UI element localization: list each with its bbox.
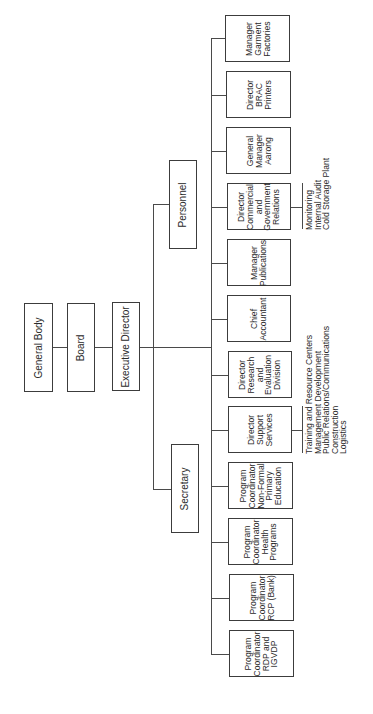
- connector-personnel: [153, 204, 169, 205]
- stub-unit-3: [211, 207, 227, 208]
- line: Director: [245, 79, 254, 109]
- line: General: [245, 134, 254, 168]
- note: Logistics: [339, 326, 348, 454]
- box-director-brac-printers: Director BRAC Printers: [226, 71, 291, 118]
- box-director-commercial-government-relations: Director Commercial and Government Relat…: [227, 183, 291, 230]
- line: Program: [248, 575, 257, 621]
- line: Publications: [259, 239, 268, 285]
- line: Program: [244, 631, 253, 676]
- stub-unit-4: [211, 263, 227, 264]
- box-personnel: Personnel: [169, 160, 197, 249]
- stub-unit-8: [211, 486, 228, 487]
- notes-bracket-commercial: [302, 183, 303, 229]
- line: Coordinator: [253, 631, 262, 676]
- stub-unit-7: [211, 430, 228, 431]
- line: Factories: [262, 21, 271, 56]
- label-board: Board: [76, 334, 87, 361]
- staff-vertical-line: [153, 204, 154, 490]
- box-executive-director: Executive Director: [112, 302, 140, 391]
- box-pc-rcp-bank: Program Coordinator RCP (Bank): [229, 574, 294, 621]
- note: Cold Storage Plant: [322, 158, 331, 230]
- box-board: Board: [67, 303, 95, 392]
- stub-unit-9: [211, 542, 229, 543]
- line: Manager: [244, 21, 253, 56]
- stub-unit-5: [211, 319, 227, 320]
- stub-unit-10: [211, 598, 229, 599]
- connector-general-body-board: [53, 347, 67, 348]
- line: Programs: [269, 519, 278, 564]
- line: Coordinator: [252, 519, 261, 564]
- stub-unit-1: [211, 95, 226, 96]
- label-secretary: Secretary: [180, 467, 191, 510]
- box-director-support-services: Director Support Services: [228, 406, 292, 453]
- line: Garment: [253, 21, 262, 56]
- connector-executive-director-spine: [140, 347, 212, 348]
- line: Services: [264, 413, 273, 446]
- line: Division: [273, 354, 282, 394]
- line: Coordinator: [247, 463, 256, 508]
- stub-unit-0: [211, 38, 226, 39]
- stub-unit-2: [211, 151, 226, 152]
- label-executive-director: Executive Director: [121, 306, 132, 387]
- connector-board-executive-director: [95, 347, 112, 348]
- box-manager-publications: Manager Publications: [227, 239, 291, 286]
- line: Education: [274, 463, 283, 508]
- box-general-manager-aarong: General Manager Aarong: [226, 127, 291, 174]
- line: Aarong: [263, 134, 272, 168]
- line: Program: [243, 519, 252, 564]
- notes-support-services: Training and Resource Centers Management…: [305, 326, 348, 454]
- notes-bracket-support: [302, 406, 303, 453]
- line: Relations: [272, 183, 281, 230]
- line: BRAC: [254, 79, 263, 109]
- box-chief-accountant: Chief Accountant: [227, 295, 291, 342]
- line: IGVDP: [270, 631, 279, 676]
- line: Printers: [263, 79, 272, 109]
- box-general-body: General Body: [24, 303, 53, 392]
- connector-secretary: [153, 489, 171, 490]
- label-general-body: General Body: [33, 317, 44, 378]
- box-pc-health-programs: Program Coordinator Health Programs: [228, 518, 293, 565]
- line: Program: [239, 463, 248, 508]
- line: Accountant: [259, 297, 268, 340]
- label-personnel: Personnel: [178, 182, 189, 227]
- stub-unit-11: [211, 654, 229, 655]
- stub-unit-6: [211, 375, 228, 376]
- box-director-research-evaluation: Director Research and Evaluation Divisio…: [228, 351, 292, 398]
- box-pc-non-formal-primary-education: Program Coordinator Non-Formal Primary E…: [228, 462, 293, 509]
- box-secretary: Secretary: [171, 444, 199, 533]
- box-manager-garment-factories: Manager Garment Factories: [225, 15, 290, 62]
- line: RCP (Bank): [266, 575, 275, 621]
- units-spine: [211, 38, 212, 655]
- notes-commercial: Monitoring Internal Audit Cold Storage P…: [305, 158, 331, 230]
- line: Manager: [254, 134, 263, 168]
- box-pc-rdp-igvdp: Program Coordinator RDP and IGVDP: [229, 630, 294, 677]
- line: Coordinator: [257, 575, 266, 621]
